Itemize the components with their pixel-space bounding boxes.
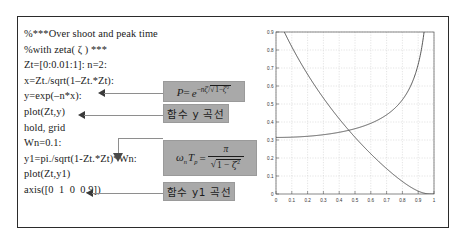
- y-tick-label: 0.2: [267, 156, 274, 161]
- y-tick-label: 0.1: [267, 174, 274, 179]
- figure-root: %***Over shoot and peak time %with zeta(…: [0, 0, 468, 243]
- y-tick-label: 0: [271, 192, 274, 197]
- x-tick-label: 0.5: [352, 198, 359, 203]
- code-line: %***Over shoot and peak time: [24, 26, 184, 42]
- formula-lhs-P: P: [177, 87, 184, 99]
- connector-vert-peaktime: [118, 138, 119, 154]
- label-y1-curve-text: 함수 y1 곡선: [167, 184, 231, 199]
- annotation-label-y-curve: 함수 y 곡선: [163, 104, 229, 123]
- x-tick-label: 0.7: [383, 198, 390, 203]
- formula-peaktime-text: ωnTp= π √1 − ζ2: [176, 145, 244, 170]
- formula-omega-n: ωn: [176, 151, 187, 165]
- x-tick-label: 0.2: [304, 198, 311, 203]
- formula-fraction: π √1 − ζ2: [208, 145, 244, 170]
- plot-svg: 00.10.20.30.40.50.60.70.80.9100.10.20.30…: [254, 22, 442, 220]
- connector-line-y-curve: [84, 115, 163, 116]
- annotation-formula-overshoot: P=e−nζ/√1−ζ2: [163, 81, 245, 102]
- formula-eq: =: [184, 87, 190, 99]
- y-tick-label: 0.3: [267, 138, 274, 143]
- code-line: plot(Zt,y1): [24, 166, 184, 182]
- formula-eq-peaktime: =: [199, 152, 205, 164]
- annotation-formula-peaktime: ωnTp= π √1 − ζ2: [163, 140, 257, 176]
- x-tick-label: 0.3: [320, 198, 327, 203]
- code-line: hold, grid: [24, 120, 184, 136]
- code-line: Zt=[0:0.01:1]: n=2:: [24, 57, 184, 73]
- connector-line-y1-curve: [92, 193, 163, 194]
- y-tick-label: 0.8: [267, 48, 274, 53]
- code-line: x=Zt./sqrt(1–Zt.*Zt):: [24, 73, 184, 89]
- formula-base-e: e: [192, 87, 197, 99]
- y-tick-label: 0.4: [267, 120, 274, 125]
- annotation-label-y1-curve: 함수 y1 곡선: [163, 182, 235, 201]
- matlab-code-block: %***Over shoot and peak time %with zeta(…: [24, 26, 184, 198]
- y-tick-label: 0.5: [267, 102, 274, 107]
- fraction-bar: [208, 156, 244, 157]
- formula-numerator-pi: π: [208, 145, 244, 155]
- y-tick-label: 0.6: [267, 84, 274, 89]
- code-line: axis([0 1 0 0.9]): [24, 182, 184, 198]
- connector-line-peaktime: [118, 138, 163, 139]
- x-tick-label: 0.4: [336, 198, 343, 203]
- connector-line-overshoot: [104, 93, 163, 94]
- code-line: plot(Zt,y): [24, 104, 184, 120]
- y-tick-label: 0.7: [267, 66, 274, 71]
- x-tick-label: 0: [275, 198, 278, 203]
- x-tick-label: 0.8: [399, 198, 406, 203]
- arrow-down-to-code-wn: [113, 153, 123, 162]
- matlab-plot: 00.10.20.30.40.50.60.70.80.9100.10.20.30…: [254, 22, 442, 220]
- formula-exponent: −nζ/√1−ζ2: [197, 86, 232, 94]
- formula-T-p: Tp: [188, 151, 197, 165]
- y-tick-label: 0.9: [267, 30, 274, 35]
- formula-denominator: √1 − ζ2: [208, 158, 244, 170]
- formula-overshoot-text: P=e−nζ/√1−ζ2: [177, 84, 231, 98]
- code-line: y1=pi./sqrt(1-Zt.*Zt)*Wn:: [24, 151, 184, 167]
- code-line: %with zeta( ζ ) ***: [24, 42, 184, 58]
- x-tick-label: 1: [433, 198, 436, 203]
- x-tick-label: 0.1: [289, 198, 296, 203]
- label-y-curve-text: 함수 y 곡선: [167, 106, 224, 121]
- x-tick-label: 0.9: [415, 198, 422, 203]
- x-tick-label: 0.6: [368, 198, 375, 203]
